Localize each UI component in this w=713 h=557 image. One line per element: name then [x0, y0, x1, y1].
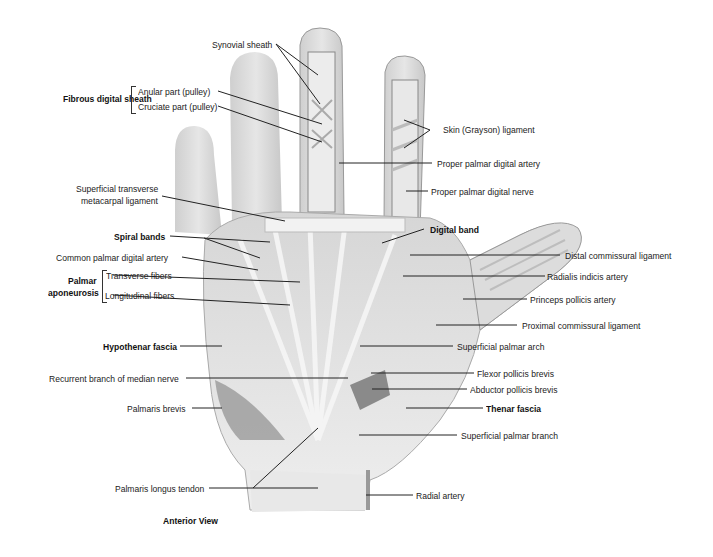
label-spiral-bands: Spiral bands [114, 231, 165, 242]
hand-anatomy-figure: Synovial sheath Fibrous digital sheath A… [0, 0, 713, 557]
label-abductor-pollicis-brevis: Abductor pollicis brevis [470, 384, 557, 395]
label-transverse-fibers: Transverse fibers [106, 270, 172, 281]
label-flexor-pollicis-brevis: Flexor pollicis brevis [477, 368, 554, 379]
label-radialis-indicis-artery: Radialis indicis artery [547, 271, 628, 282]
label-proper-palmar-digital-artery: Proper palmar digital artery [437, 158, 540, 169]
label-hypothenar-fascia: Hypothenar fascia [103, 341, 177, 352]
label-radial-artery: Radial artery [416, 490, 464, 501]
label-longitudinal-fibers: Longitudinal fibers [105, 290, 174, 301]
label-proper-palmar-digital-nerve: Proper palmar digital nerve [431, 186, 534, 197]
label-skin-grayson-ligament: Skin (Grayson) ligament [443, 124, 535, 135]
label-palmaris-brevis: Palmaris brevis [127, 403, 185, 414]
label-proximal-commissural-ligament: Proximal commissural ligament [522, 320, 640, 331]
label-cruciate-part: Cruciate part (pulley) [138, 101, 217, 112]
label-synovial-sheath: Synovial sheath [212, 39, 272, 50]
label-palmar-1: Palmar [68, 275, 97, 286]
label-superficial-transverse-2: metacarpal ligament [81, 195, 158, 206]
label-superficial-palmar-arch: Superficial palmar arch [457, 341, 544, 352]
bracket-fibrous-digital-sheath [131, 86, 136, 114]
label-anular-part: Anular part (pulley) [138, 86, 210, 97]
label-princeps-pollicis-artery: Princeps pollicis artery [530, 294, 616, 305]
figure-caption: Anterior View [163, 515, 218, 526]
label-distal-commissural-ligament: Distal commissural ligament [565, 250, 671, 261]
label-thenar-fascia: Thenar fascia [486, 403, 541, 414]
label-recurrent-branch-median-nerve: Recurrent branch of median nerve [49, 373, 179, 384]
label-superficial-palmar-branch: Superficial palmar branch [461, 430, 558, 441]
label-palmar-2: aponeurosis [48, 287, 99, 298]
label-palmaris-longus-tendon: Palmaris longus tendon [115, 483, 204, 494]
label-superficial-transverse-1: Superficial transverse [76, 183, 158, 194]
label-common-palmar-digital-artery: Common palmar digital artery [56, 252, 168, 263]
label-digital-band: Digital band [430, 224, 479, 235]
